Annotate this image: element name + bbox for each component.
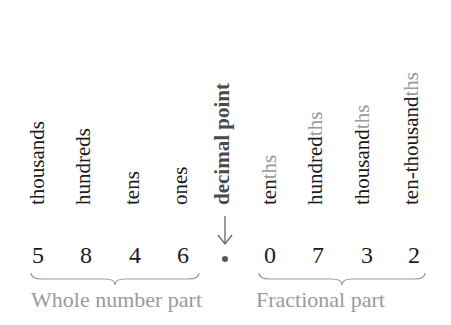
fractional-part-label: Fractional part [256, 288, 385, 312]
label-ten-thousandths: ten-thousandths [401, 72, 422, 205]
suffix-ths: ths [257, 155, 281, 180]
label-thousands: thousands [27, 121, 48, 205]
decimal-point-dot [222, 256, 228, 262]
label-tens: tens [122, 171, 143, 205]
digit-thousandths: 3 [357, 243, 377, 267]
fractional-part-brace [258, 272, 426, 286]
digit-ten-thousandths: 2 [404, 243, 424, 267]
digit-thousands: 5 [28, 243, 48, 267]
label-decimal-point: decimal point [212, 83, 233, 205]
whole-part-brace [30, 272, 200, 286]
digit-tenths: 0 [260, 243, 280, 267]
label-hundredths: hundredths [305, 112, 326, 205]
whole-number-part-label: Whole number part [31, 288, 202, 312]
suffix-ths: ths [350, 105, 374, 130]
digit-hundredths: 7 [308, 243, 328, 267]
digit-ones: 6 [173, 243, 193, 267]
suffix-ths: ths [303, 112, 327, 137]
label-thousandths: thousandths [352, 105, 373, 205]
label-hundreds: hundreds [73, 128, 94, 205]
digit-hundreds: 8 [76, 243, 96, 267]
down-arrow-icon [217, 216, 233, 246]
digit-tens: 4 [125, 243, 145, 267]
label-ones: ones [170, 167, 191, 206]
label-tenths: tenths [259, 155, 280, 205]
suffix-ths: ths [399, 72, 423, 97]
